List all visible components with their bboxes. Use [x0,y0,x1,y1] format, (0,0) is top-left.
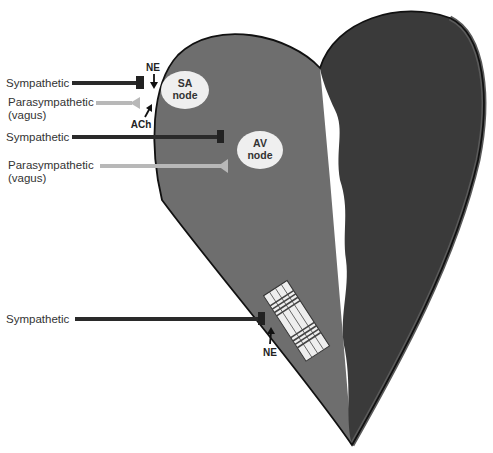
sa-node: SA node [161,71,209,109]
svg-text:node: node [172,89,197,101]
arrow-down-icon [150,82,158,89]
svg-text:Sympathetic: Sympathetic [6,77,70,89]
ne-top-label: NE [146,62,160,89]
svg-text:node: node [247,149,272,161]
svg-text:ACh: ACh [131,119,152,130]
svg-text:AV: AV [253,137,267,149]
av-node: AV node [237,131,283,169]
sympathetic-fiber-sa: Sympathetic [6,76,144,89]
svg-text:(vagus): (vagus) [8,109,47,121]
svg-text:Sympathetic: Sympathetic [6,131,70,143]
heart-diagram: SA node AV node Sympathetic Parasympathe… [0,0,493,453]
svg-text:Sympathetic: Sympathetic [6,313,70,325]
ach-label: ACh [131,104,152,130]
svg-text:NE: NE [263,347,277,358]
sympathetic-fiber-ventricle: Sympathetic [6,312,265,325]
svg-text:Parasympathetic: Parasympathetic [8,159,94,171]
svg-text:NE: NE [146,62,160,73]
svg-text:Parasympathetic: Parasympathetic [8,96,94,108]
svg-text:(vagus): (vagus) [8,172,47,184]
svg-text:SA: SA [178,77,193,89]
parasympathetic-fiber-sa: Parasympathetic (vagus) [8,96,140,121]
